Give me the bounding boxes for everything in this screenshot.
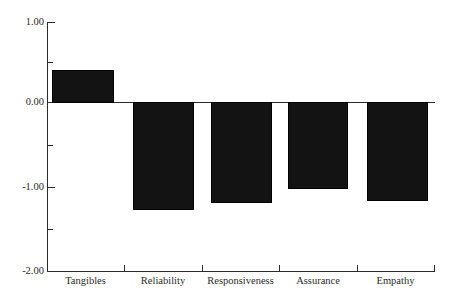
x-tick-sep-1 [124,265,125,272]
x-tick-sep-5 [434,265,435,272]
y-axis-line [47,22,48,272]
y-tick-major-neg2 [48,271,55,272]
servqual-gap-bar-chart: 1.00 0.00 -1.00 -2.00 Tangibles Reliabil… [0,0,454,296]
y-axis-label-0: 0.00 [0,97,44,107]
x-tick-sep-2 [202,265,203,272]
y-tick-major-neg1 [48,187,55,188]
y-axis-label-neg2: -2.00 [0,266,44,276]
chart-title-clipped [0,0,454,9]
x-axis-label-empathy: Empathy [357,275,434,287]
y-axis-label-neg1: -1.00 [0,182,44,192]
y-tick-minor-neg1p5 [48,229,53,230]
x-axis-line [47,271,435,272]
y-tick-minor-0p5 [48,62,53,63]
y-tick-major-1 [48,22,55,23]
y-axis-label-1: 1.00 [0,17,44,27]
bar-reliability [133,102,194,210]
x-axis-label-responsiveness: Responsiveness [202,275,279,287]
y-tick-minor-neg0p5 [48,145,53,146]
bar-assurance [288,102,348,189]
x-tick-sep-4 [357,265,358,272]
x-tick-sep-3 [279,265,280,272]
bar-empathy [367,102,428,201]
x-axis-label-tangibles: Tangibles [47,275,124,287]
x-axis-label-assurance: Assurance [279,275,357,287]
x-axis-label-reliability: Reliability [124,275,202,287]
bar-tangibles [52,70,114,103]
bar-responsiveness [211,102,272,203]
